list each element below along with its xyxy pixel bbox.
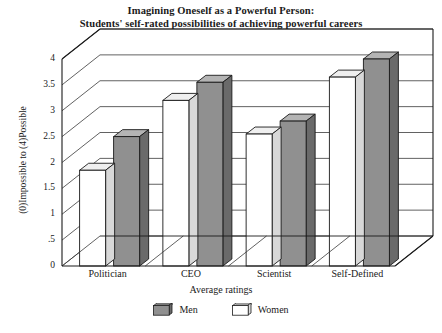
bar-women — [246, 127, 281, 266]
x-tick-label-self-defined: Self-Defined — [307, 268, 407, 279]
y-tick-label: 4 — [29, 54, 55, 64]
y-tick-label: 2.5 — [29, 132, 55, 142]
bar-women — [80, 163, 115, 266]
bar-men — [114, 130, 149, 266]
bar-women — [329, 70, 364, 266]
plot-area — [0, 0, 442, 333]
legend-label-women: Women — [258, 303, 289, 316]
y-tick-label: 3 — [29, 106, 55, 116]
y-tick-label: 1 — [29, 209, 55, 219]
chart-legend: Men Women — [0, 303, 442, 316]
y-tick-label: 2 — [29, 158, 55, 168]
legend-swatch-women — [232, 303, 252, 316]
y-tick-label: 1.5 — [29, 183, 55, 193]
chart-container: Imagining Oneself as a Powerful Person: … — [0, 0, 442, 333]
bar-men — [197, 75, 232, 266]
y-tick-label: 0 — [29, 261, 55, 271]
bar-women — [163, 93, 198, 266]
bar-men — [280, 114, 315, 266]
legend-item-men[interactable]: Men — [153, 303, 197, 316]
plot-svg — [0, 0, 442, 333]
y-tick-label: .5 — [29, 235, 55, 245]
y-tick-label: 3.5 — [29, 80, 55, 90]
legend-item-women[interactable]: Women — [232, 303, 289, 316]
bar-men — [363, 52, 398, 266]
legend-swatch-men — [153, 303, 173, 316]
legend-label-men: Men — [179, 303, 197, 316]
